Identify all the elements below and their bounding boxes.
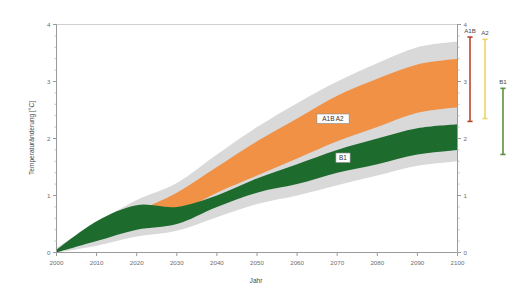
chart-figure: 01234 2000201020202030204020502060207020… (0, 0, 526, 291)
x-tick-label: 2010 (90, 259, 104, 266)
y-tick-label: 3 (47, 78, 51, 85)
x-tick-label: 2100 (451, 259, 465, 266)
inline-label-text: B1 (339, 154, 347, 161)
right-tick-label: 3 (464, 78, 468, 85)
range-bar-label: B1 (499, 78, 507, 85)
inline-label: A1B A2 (317, 114, 349, 124)
temperature-projection-chart: 01234 2000201020202030204020502060207020… (0, 0, 526, 291)
x-tick-label: 2080 (370, 259, 384, 266)
y-tick-label: 1 (47, 192, 51, 199)
y-tick-label: 2 (47, 135, 51, 142)
x-tick-label: 2040 (210, 259, 224, 266)
x-tick-label: 2050 (250, 259, 264, 266)
x-tick-label: 2000 (50, 259, 64, 266)
right-tick-label: 1 (464, 192, 468, 199)
right-tick-label: 0 (464, 249, 468, 256)
range-bar-label: A1B (464, 27, 476, 34)
x-axis-title: Jahr (250, 277, 264, 284)
x-tick-label: 2020 (130, 259, 144, 266)
inline-label-text: A1B A2 (322, 115, 344, 122)
x-tick-label: 2090 (411, 259, 425, 266)
x-tick-label: 2030 (170, 259, 184, 266)
y-tick-label: 0 (47, 249, 51, 256)
y-tick-label: 4 (47, 21, 51, 28)
inline-label: B1 (336, 153, 350, 163)
y-axis-title: Temperaturänderung [°C] (28, 101, 36, 175)
range-bar-label: A2 (481, 29, 489, 36)
right-tick-label: 2 (464, 135, 468, 142)
x-tick-label: 2060 (290, 259, 304, 266)
x-tick-label: 2070 (330, 259, 344, 266)
